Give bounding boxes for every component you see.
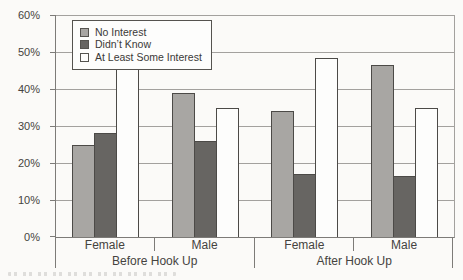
bar-female-no-interest: [271, 111, 294, 237]
bar-female-at-least-some-interest: [315, 58, 338, 237]
bar-chart-figure: No Interest Didn’t Know At Least Some In…: [0, 0, 463, 280]
legend-item-didnt-know: Didn’t Know: [80, 39, 202, 50]
bar-male-no-interest: [172, 93, 195, 237]
category-label-1-male: Male: [155, 239, 255, 252]
group-label-before-hook-up: Before Hook Up: [55, 255, 255, 268]
group-label-row: Before Hook UpAfter Hook Up: [55, 255, 454, 268]
legend-label-at-least-some-interest: At Least Some Interest: [95, 52, 202, 63]
plot-area: No Interest Didn’t Know At Least Some In…: [55, 15, 455, 238]
bar-female-didn-t-know: [293, 174, 316, 237]
y-axis-label-20: 20%: [0, 157, 40, 169]
y-axis-label-30: 30%: [0, 120, 40, 132]
legend: No Interest Didn’t Know At Least Some In…: [72, 20, 212, 70]
y-axis-label-10: 10%: [0, 194, 40, 206]
cropped-caption-remnant: [8, 272, 176, 276]
category-label-row: FemaleMaleFemaleMale: [55, 239, 454, 252]
category-label-3-male: Male: [354, 239, 454, 252]
bar-male-no-interest: [371, 65, 394, 237]
legend-label-no-interest: No Interest: [95, 27, 146, 38]
legend-label-didnt-know: Didn’t Know: [95, 39, 151, 50]
category-label-0-female: Female: [55, 239, 155, 252]
gridline-60: [56, 15, 454, 16]
x-axis-separator-4: [452, 238, 453, 268]
y-axis-label-50: 50%: [0, 46, 40, 58]
bar-male-didn-t-know: [194, 141, 217, 237]
bar-male-didn-t-know: [393, 176, 416, 237]
didnt-know-swatch-icon: [80, 40, 89, 49]
legend-item-no-interest: No Interest: [80, 27, 202, 38]
bar-female-didn-t-know: [94, 133, 117, 237]
bar-male-at-least-some-interest: [216, 108, 239, 238]
x-axis-separator-0: [55, 238, 56, 268]
x-axis-separator-1: [154, 238, 155, 251]
bar-female-no-interest: [72, 145, 95, 238]
y-axis-label-0: 0%: [0, 231, 40, 243]
legend-item-at-least-some-interest: At Least Some Interest: [80, 52, 202, 63]
no-interest-swatch-icon: [80, 28, 89, 37]
category-label-2-female: Female: [255, 239, 355, 252]
y-axis-label-60: 60%: [0, 9, 40, 21]
bar-female-at-least-some-interest: [116, 63, 139, 237]
x-axis-separator-2: [254, 238, 255, 268]
at-least-some-interest-swatch-icon: [80, 53, 89, 62]
group-label-after-hook-up: After Hook Up: [255, 255, 455, 268]
y-axis-label-40: 40%: [0, 83, 40, 95]
bar-male-at-least-some-interest: [415, 108, 438, 238]
x-axis-separator-3: [353, 238, 354, 251]
